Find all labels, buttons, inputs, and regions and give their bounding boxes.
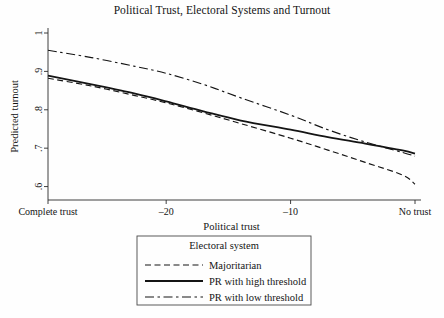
legend-label-majoritarian[interactable]: Majoritarian bbox=[209, 260, 262, 271]
legend-label-pr-with-low-threshold[interactable]: PR with low threshold bbox=[209, 292, 304, 303]
chart-canvas: 1.9.8.7.6Complete trust–20–10No trustPol… bbox=[0, 0, 444, 318]
y-tick-label: 1 bbox=[33, 31, 44, 36]
y-tick-label: .9 bbox=[33, 68, 44, 76]
y-axis-title: Predicted turnout bbox=[9, 80, 20, 153]
x-tick-label: Complete trust bbox=[18, 206, 77, 217]
series-line-pr-with-low-threshold bbox=[48, 50, 415, 156]
chart-figure: Political Trust, Electoral Systems and T… bbox=[0, 0, 444, 318]
legend-title: Electoral system bbox=[189, 240, 259, 251]
x-tick-label: –10 bbox=[282, 206, 298, 217]
chart-legend[interactable]: Electoral systemMajoritarianPR with high… bbox=[137, 236, 311, 305]
x-axis-title: Political trust bbox=[203, 221, 259, 232]
series-line-pr-with-high-threshold bbox=[48, 76, 415, 154]
x-tick-label: No trust bbox=[399, 206, 432, 217]
series-lines bbox=[48, 50, 415, 184]
legend-label-pr-with-high-threshold[interactable]: PR with high threshold bbox=[209, 276, 307, 287]
y-tick-label: .6 bbox=[33, 183, 44, 191]
x-tick-label: –20 bbox=[158, 206, 174, 217]
axes bbox=[44, 28, 421, 204]
axis-labels: 1.9.8.7.6Complete trust–20–10No trustPol… bbox=[9, 31, 431, 233]
y-tick-label: .8 bbox=[33, 106, 44, 114]
y-tick-label: .7 bbox=[33, 144, 44, 152]
axis-lines bbox=[48, 28, 421, 200]
